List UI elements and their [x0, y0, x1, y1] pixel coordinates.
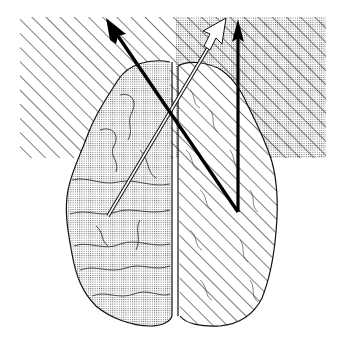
brain-diagram: [0, 0, 343, 345]
